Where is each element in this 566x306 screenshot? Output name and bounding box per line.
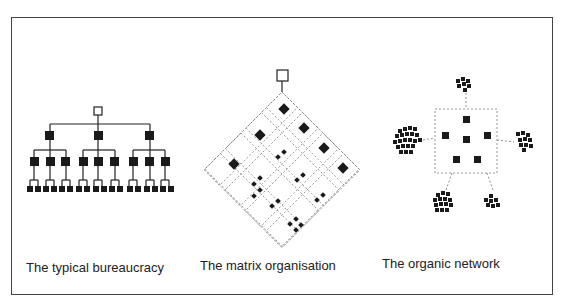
label-bureaucracy: The typical bureaucracy <box>26 260 164 275</box>
matrix-diagram <box>204 70 360 248</box>
label-network: The organic network <box>382 256 500 271</box>
bureaucracy-diagram <box>27 107 174 192</box>
label-matrix: The matrix organisation <box>200 258 336 273</box>
network-diagram <box>393 77 533 212</box>
